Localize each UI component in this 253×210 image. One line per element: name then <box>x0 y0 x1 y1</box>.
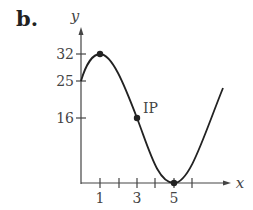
max-point <box>97 51 103 57</box>
x-axis-arrow-icon <box>223 181 231 186</box>
x-tick-label-3: 3 <box>133 190 142 206</box>
y-tick-label-25: 25 <box>56 73 74 89</box>
ip-annotation: IP <box>143 100 158 116</box>
y-tick-label-32: 32 <box>56 46 74 62</box>
x-axis <box>81 178 231 188</box>
y-axis-label: y <box>70 7 80 25</box>
function-curve <box>81 54 223 183</box>
x-tick-label-5: 5 <box>170 190 179 206</box>
y-axis <box>76 27 86 184</box>
x-tick-label-1: 1 <box>96 190 105 206</box>
min-point <box>171 180 177 186</box>
inflection-point <box>134 115 140 121</box>
function-graph: y 32 25 16 x 1 3 5 IP <box>0 0 253 210</box>
x-axis-label: x <box>236 174 245 192</box>
y-tick-label-16: 16 <box>56 110 74 126</box>
y-axis-arrow-icon <box>79 27 84 35</box>
